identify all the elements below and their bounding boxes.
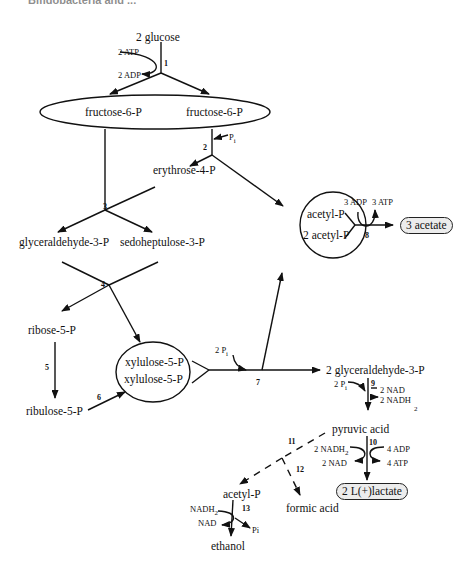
step-1: 1	[164, 58, 168, 70]
cofactor-nadh-9: 2 NADH2	[380, 394, 417, 415]
node-sedoheptulose-3p: sedoheptulose-3-P	[120, 236, 205, 248]
cofactor-pi-2: Pi	[229, 131, 236, 147]
node-fructose-6p-a: fructose-6-P	[85, 106, 142, 118]
cofactor-pi-9: 2 Pi	[334, 378, 347, 394]
step-6: 6	[97, 392, 101, 404]
node-glucose: 2 glucose	[136, 31, 180, 43]
node-acetyl-p-c: acetyl-P	[223, 488, 261, 500]
step-13: 13	[242, 503, 250, 515]
step-8: 8	[365, 230, 369, 242]
node-formic-acid: formic acid	[286, 502, 339, 514]
node-acetyl-p-a: acetyl-P	[307, 208, 345, 220]
xylulose-ellipse	[116, 342, 190, 402]
cofactor-adp-8: 3 ADP	[344, 196, 367, 208]
node-ribose-5p: ribose-5-P	[28, 324, 76, 336]
step-10: 10	[369, 437, 377, 449]
cofactor-atp-10: 4 ATP	[387, 457, 408, 469]
step-3: 3	[103, 201, 107, 213]
step-12: 12	[296, 464, 304, 476]
cofactor-adp-out: 2 ADP	[118, 69, 141, 81]
node-glyceraldehyde-3p-2: 2 glyceraldehyde-3-P	[326, 364, 425, 376]
step-9: 9	[371, 378, 375, 390]
cofactor-nad-10: 2 NAD	[322, 457, 347, 469]
node-pyruvic-acid: pyruvic acid	[332, 423, 389, 435]
step-2: 2	[203, 142, 207, 154]
cofactor-pi-13: Pi	[252, 524, 259, 536]
cofactor-adp-10: 4 ADP	[387, 443, 410, 455]
product-lactate: 2 L(+)lactate	[336, 483, 408, 500]
product-acetate: 3 acetate	[400, 217, 453, 234]
node-acetyl-p-b: 2 acetyl-P	[303, 229, 349, 241]
step-7: 7	[256, 377, 260, 389]
node-ethanol: ethanol	[211, 540, 245, 552]
cofactor-atp-in: 2 ATP	[118, 46, 139, 58]
node-fructose-6p-b: fructose-6-P	[186, 106, 243, 118]
node-xylulose-5p-b: xylulose-5-P	[124, 373, 183, 385]
node-ribulose-5p: ribulose-5-P	[26, 405, 83, 417]
node-xylulose-5p-a: xylulose-5-P	[125, 356, 184, 368]
node-erythrose-4p: erythrose-4-P	[153, 164, 216, 176]
step-4: 4	[101, 279, 105, 291]
cofactor-nad-13: NAD	[198, 517, 216, 529]
cofactor-atp-8: 3 ATP	[372, 196, 393, 208]
cofactor-pi-7: 2 Pi	[215, 344, 228, 360]
step-5: 5	[45, 362, 49, 374]
node-glyceraldehyde-3p: glyceraldehyde-3-P	[19, 236, 109, 248]
step-11: 11	[288, 436, 296, 448]
